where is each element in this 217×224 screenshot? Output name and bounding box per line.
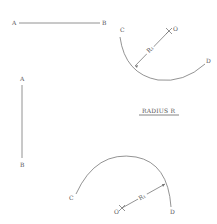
arc-top xyxy=(120,37,205,80)
label-d-bottom: D xyxy=(170,208,175,215)
label-a-horizontal: A xyxy=(11,19,17,26)
label-c-top: C xyxy=(120,26,125,33)
label-a-vertical: A xyxy=(19,75,25,82)
label-c-bottom: C xyxy=(69,194,74,201)
label-b-vertical: B xyxy=(20,161,25,168)
title-group: RADIUS R xyxy=(139,107,179,115)
arc-bottom xyxy=(76,156,171,207)
label-o-bottom: O xyxy=(114,208,119,215)
label-d-top: D xyxy=(206,57,211,64)
title-radius-r: RADIUS R xyxy=(142,107,176,114)
label-b-horizontal: B xyxy=(102,19,107,26)
arc-bottom-cd: C D O R₁ xyxy=(69,156,175,215)
vertical-line-ab: A B xyxy=(19,75,25,168)
arc-top-cd: C D O R₁ xyxy=(120,25,211,80)
diagram-canvas: A B A B C D O R₁ RADIUS R C D O R₁ xyxy=(0,0,217,224)
label-o-top: O xyxy=(173,25,178,32)
horizontal-line-ab: A B xyxy=(11,19,107,26)
